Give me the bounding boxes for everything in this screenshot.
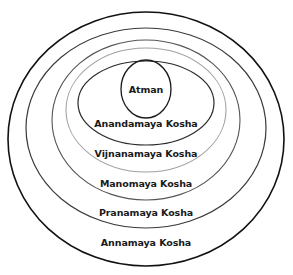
atman-label: Atman <box>129 84 164 95</box>
anandamaya-layer <box>78 61 214 145</box>
vijnanamaya-label: Vijnanamaya Kosha <box>95 148 198 159</box>
pranamaya-label: Pranamaya Kosha <box>99 207 193 218</box>
anandamaya-label: Anandamaya Kosha <box>94 118 197 129</box>
manomaya-label: Manomaya Kosha <box>100 178 192 189</box>
kosha-diagram: Atman Anandamaya Kosha Vijnanamaya Kosha… <box>0 0 293 275</box>
annamaya-label: Annamaya Kosha <box>101 237 191 248</box>
